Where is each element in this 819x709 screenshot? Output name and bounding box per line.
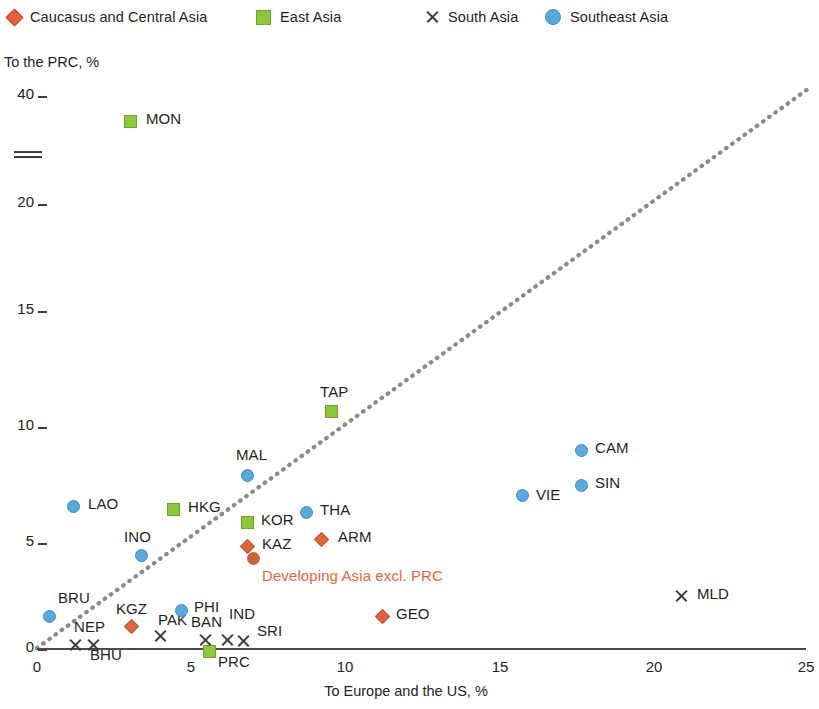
data-point-label-prc: PRC (218, 653, 250, 670)
x-tick-label: 15 (480, 658, 520, 675)
y-tick-label: 40 (0, 85, 34, 102)
data-point-bru[interactable] (43, 610, 56, 623)
data-point-sin[interactable] (575, 479, 588, 492)
data-point-mal[interactable] (241, 469, 254, 482)
data-point-label-kaz: KAZ (262, 535, 291, 552)
data-point-label-tha: THA (320, 501, 350, 518)
data-point-developing-asia[interactable] (247, 552, 260, 565)
x-axis-line (37, 648, 806, 650)
y-tick-label: 0 (0, 638, 34, 655)
data-point-label-ino: INO (124, 528, 151, 545)
y-tick-mark (38, 96, 47, 98)
data-point-label-hkg: HKG (188, 498, 221, 515)
y-axis-break-mark-upper (14, 151, 42, 153)
data-point-sri[interactable] (236, 634, 250, 648)
data-point-label-cam: CAM (595, 439, 629, 456)
data-point-label-geo: GEO (396, 605, 430, 622)
data-point-hkg[interactable] (167, 503, 180, 516)
data-point-label-mon: MON (146, 110, 181, 127)
data-point-label-vie: VIE (536, 486, 560, 503)
y-tick-mark (38, 204, 47, 206)
data-point-mon[interactable] (124, 115, 137, 128)
y-tick-label: 15 (0, 300, 34, 317)
x-tick-label: 0 (17, 658, 57, 675)
data-point-label-arm: ARM (338, 528, 372, 545)
y-tick-mark (38, 311, 47, 313)
data-point-tha[interactable] (300, 506, 313, 519)
data-point-pak[interactable] (153, 629, 167, 643)
data-point-kgz[interactable] (123, 618, 139, 634)
data-point-label-phi: PHI (194, 598, 219, 615)
data-point-label-lao: LAO (88, 495, 118, 512)
y-tick-mark (38, 427, 47, 429)
data-point-label-nep: NEP (74, 618, 105, 635)
data-point-mld[interactable] (674, 589, 688, 603)
data-point-label-mld: MLD (697, 585, 729, 602)
y-axis-title: To the PRC, % (4, 54, 99, 70)
y-axis-break-mark-lower (14, 156, 42, 158)
data-point-ind[interactable] (220, 633, 234, 647)
y-tick-mark (38, 543, 47, 545)
x-tick-label: 5 (171, 658, 211, 675)
data-point-cam[interactable] (575, 444, 588, 457)
data-point-phi[interactable] (175, 604, 188, 617)
x-tick-label: 25 (786, 658, 819, 675)
data-point-geo[interactable] (374, 608, 390, 624)
developing-asia-annotation: Developing Asia excl. PRC (262, 567, 443, 584)
data-point-ban[interactable] (198, 633, 212, 647)
x-axis-title: To Europe and the US, % (0, 683, 812, 699)
data-point-label-kor: KOR (261, 511, 294, 528)
data-point-label-kgz: KGZ (116, 600, 147, 617)
data-point-vie[interactable] (516, 489, 529, 502)
data-point-label-bhu: BHU (90, 646, 122, 663)
parity-reference-line (37, 86, 812, 648)
x-tick-label: 20 (634, 658, 674, 675)
data-point-ino[interactable] (135, 549, 148, 562)
data-point-kor[interactable] (241, 516, 254, 529)
data-point-tap[interactable] (325, 405, 338, 418)
data-point-lao[interactable] (67, 500, 80, 513)
y-tick-label: 20 (0, 193, 34, 210)
data-point-label-ban: BAN (191, 613, 222, 630)
data-point-label-mal: MAL (236, 446, 267, 463)
data-point-arm[interactable] (313, 531, 329, 547)
y-tick-label: 5 (0, 532, 34, 549)
data-point-label-sin: SIN (595, 474, 620, 491)
data-point-label-tap: TAP (320, 383, 348, 400)
data-point-nep[interactable] (68, 638, 82, 652)
data-point-label-sri: SRI (257, 622, 282, 639)
data-point-label-ind: IND (229, 605, 255, 622)
y-tick-label: 10 (0, 416, 34, 433)
data-point-label-bru: BRU (58, 589, 90, 606)
x-tick-label: 10 (325, 658, 365, 675)
